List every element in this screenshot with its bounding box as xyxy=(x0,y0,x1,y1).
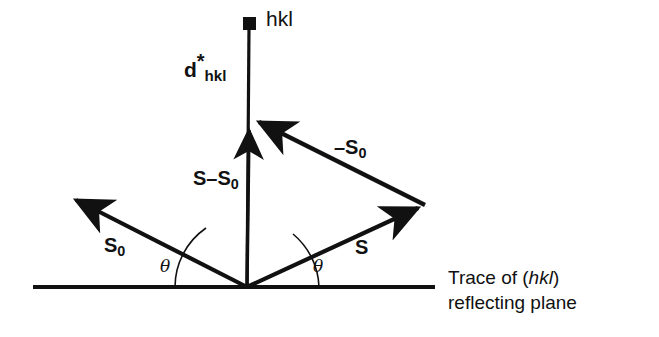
s0-label: S0 xyxy=(104,235,125,258)
d-star-hkl-label: d*hkl xyxy=(184,52,226,83)
hkl-node-label: hkl xyxy=(266,8,293,29)
minus-s0-subscript: 0 xyxy=(358,145,366,161)
s-minus-s0-subscript: 0 xyxy=(231,176,239,192)
hkl-lattice-node-square xyxy=(243,17,256,30)
theta-left-label: θ xyxy=(160,258,170,275)
s0-subscript: 0 xyxy=(117,243,125,259)
trace-caption-line1: Trace of (hkl) xyxy=(448,268,559,287)
d-star-subscript: hkl xyxy=(205,67,227,84)
d-star-base: d xyxy=(184,58,197,81)
minus-s0-text: –S xyxy=(334,136,358,158)
s0-text: S xyxy=(104,234,117,256)
trace-prefix: Trace of ( xyxy=(448,267,529,288)
minus-s0-vector xyxy=(259,122,425,205)
minus-s0-label: –S0 xyxy=(334,137,366,160)
s-minus-s0-text: S–S xyxy=(193,167,231,189)
s-label: S xyxy=(355,237,368,257)
diagram-canvas xyxy=(0,0,659,337)
d-star-superscript: * xyxy=(197,50,205,72)
theta-right-label: θ xyxy=(313,258,323,275)
s-minus-s0-label: S–S0 xyxy=(193,168,239,191)
trace-suffix: ) xyxy=(553,267,559,288)
diffraction-vector-diagram: hkl d*hkl S–S0 –S0 S0 S θ θ Trace of (hk… xyxy=(0,0,659,337)
s-minus-s0-vector xyxy=(247,130,249,287)
s-scattered-vector xyxy=(247,208,418,287)
trace-caption-line2: reflecting plane xyxy=(448,293,577,312)
trace-hkl-italic: hkl xyxy=(529,267,553,288)
